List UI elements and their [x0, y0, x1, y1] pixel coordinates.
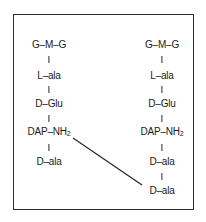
crosslink-line: [0, 0, 206, 222]
